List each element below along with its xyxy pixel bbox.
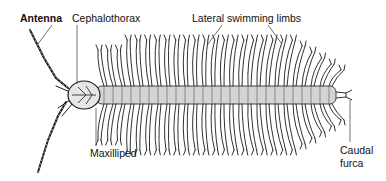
caudal-furca-shape: [336, 90, 352, 100]
antenna-upper: [30, 30, 68, 88]
label-caudal-furca-line2: furca: [340, 157, 363, 169]
label-cephalothorax: Cephalothorax: [72, 12, 140, 24]
antenna-lower: [38, 102, 66, 172]
label-caudal-furca-line1: Caudal: [340, 144, 373, 156]
label-lateral-swimming-limbs: Lateral swimming limbs: [192, 12, 301, 24]
remipede-illustration: [0, 0, 386, 181]
label-maxilliped: Maxilliped: [90, 147, 137, 159]
cephalothorax-shape: [68, 81, 100, 109]
diagram-canvas: Antenna Cephalothorax Lateral swimming l…: [0, 0, 386, 181]
body-trunk: [96, 86, 336, 104]
label-antenna: Antenna: [20, 12, 62, 24]
